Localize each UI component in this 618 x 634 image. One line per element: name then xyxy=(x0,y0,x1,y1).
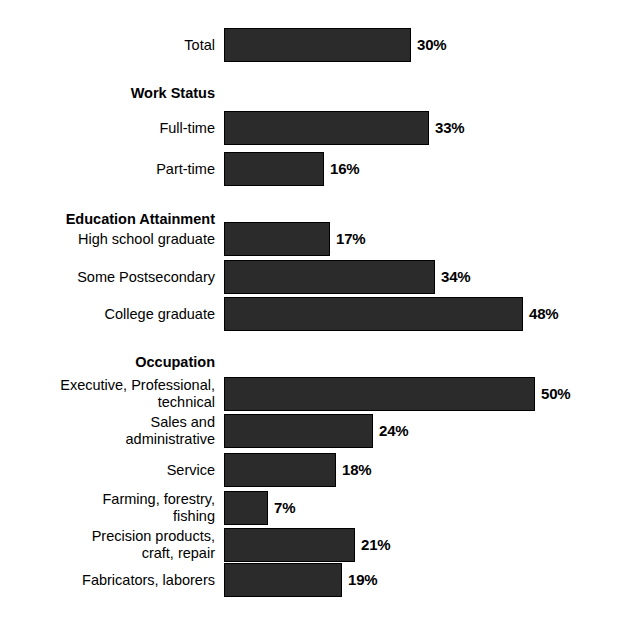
bar-category-label: Some Postsecondary xyxy=(0,269,215,286)
bar xyxy=(224,152,324,186)
bar-value-label: 17% xyxy=(336,230,365,247)
bar-value-label: 18% xyxy=(342,461,371,478)
group-header-label: Occupation xyxy=(0,354,215,371)
bar xyxy=(224,453,336,487)
bar xyxy=(224,260,435,294)
bar-value-label: 50% xyxy=(541,385,570,402)
bar-category-label: Service xyxy=(0,462,215,479)
bar-value-label: 30% xyxy=(417,36,446,53)
bar xyxy=(224,528,355,562)
bar-chart: Total30%Work StatusFull-time33%Part-time… xyxy=(0,0,618,634)
group-header-label: Work Status xyxy=(0,85,215,102)
bar xyxy=(224,28,411,62)
bar xyxy=(224,563,342,597)
bar-value-label: 34% xyxy=(441,268,470,285)
bar xyxy=(224,414,373,448)
bar xyxy=(224,377,535,411)
bar-value-label: 21% xyxy=(361,536,390,553)
bar-category-label: Total xyxy=(0,37,215,54)
bar-category-label: Sales and administrative xyxy=(0,414,215,448)
bar-value-label: 24% xyxy=(379,422,408,439)
bar-category-label: Full-time xyxy=(0,120,215,137)
bar xyxy=(224,111,429,145)
bar-category-label: Fabricators, laborers xyxy=(0,572,215,589)
bar xyxy=(224,222,330,256)
bar-value-label: 19% xyxy=(348,571,377,588)
bar-value-label: 48% xyxy=(529,305,558,322)
bar xyxy=(224,297,523,331)
bar-category-label: High school graduate xyxy=(0,231,215,248)
bar-category-label: Precision products, craft, repair xyxy=(0,528,215,562)
bar-value-label: 16% xyxy=(330,160,359,177)
bar-category-label: College graduate xyxy=(0,306,215,323)
group-header-label: Education Attainment xyxy=(0,211,215,228)
bar-category-label: Part-time xyxy=(0,161,215,178)
bar-category-label: Executive, Professional, technical xyxy=(0,377,215,411)
bar-value-label: 7% xyxy=(274,499,295,516)
bar xyxy=(224,491,268,525)
bar-value-label: 33% xyxy=(435,119,464,136)
bar-category-label: Farming, forestry, fishing xyxy=(0,491,215,525)
